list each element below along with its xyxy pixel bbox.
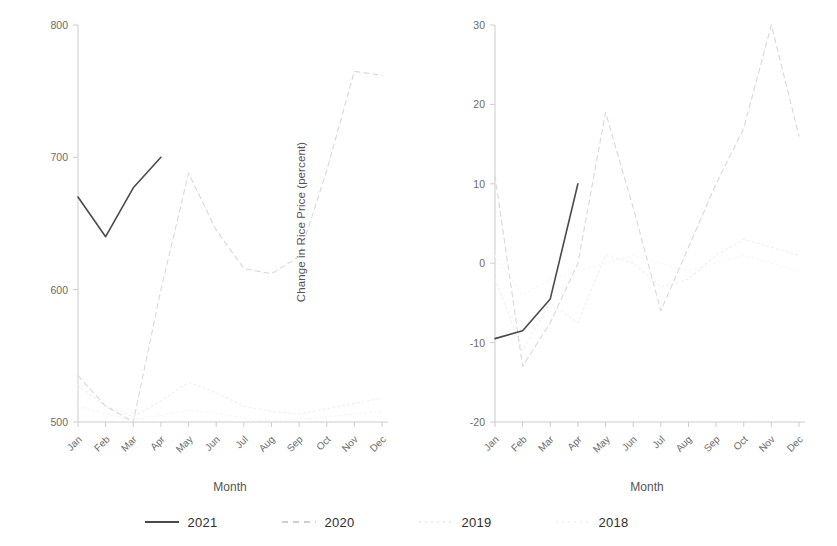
chart-panel-left: Price of Rice (ariare) Month 50060070080… xyxy=(0,0,420,500)
legend-label: 2021 xyxy=(188,515,218,530)
series-line-2020 xyxy=(495,25,799,366)
legend-item-2019[interactable]: 2019 xyxy=(419,515,556,530)
chart-legend: 2021202020192018 xyxy=(0,498,837,546)
legend-line-swatch-icon xyxy=(282,521,316,523)
series-line-2019 xyxy=(78,382,382,416)
y-tick-label: -20 xyxy=(417,416,485,428)
legend-label: 2019 xyxy=(462,515,492,530)
right-chart-y-axis-label: Change in Rice Price (percent) xyxy=(295,72,307,372)
y-tick-label: 0 xyxy=(417,257,485,269)
series-line-2019 xyxy=(495,239,799,350)
series-line-2021 xyxy=(78,157,161,236)
legend-label: 2020 xyxy=(325,515,355,530)
legend-line-swatch-icon xyxy=(556,521,590,523)
y-tick-label: 800 xyxy=(0,19,68,31)
series-line-2018 xyxy=(78,406,382,421)
legend-item-2021[interactable]: 2021 xyxy=(145,515,282,530)
chart-panel-right: Change in Rice Price (percent) Month -20… xyxy=(417,0,837,500)
legend-label: 2018 xyxy=(599,515,629,530)
rice-price-figure: Price of Rice (ariare) Month 50060070080… xyxy=(0,0,837,546)
legend-item-2020[interactable]: 2020 xyxy=(282,515,419,530)
series-line-2020 xyxy=(78,71,382,422)
y-tick-label: 500 xyxy=(0,416,68,428)
y-tick-label: 700 xyxy=(0,151,68,163)
y-tick-label: 600 xyxy=(0,284,68,296)
legend-item-2018[interactable]: 2018 xyxy=(556,515,693,530)
legend-line-swatch-icon xyxy=(145,521,179,523)
y-tick-label: 30 xyxy=(417,19,485,31)
y-tick-label: 10 xyxy=(417,178,485,190)
legend-line-swatch-icon xyxy=(419,521,453,523)
y-tick-label: 20 xyxy=(417,98,485,110)
y-tick-label: -10 xyxy=(417,337,485,349)
